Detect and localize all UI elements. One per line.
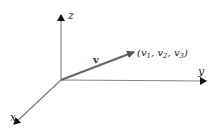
coordinate-diagram: z y x v (v1, v2, v3) <box>0 0 223 140</box>
y-axis-label: y <box>197 65 205 78</box>
x-axis-label: x <box>10 111 17 124</box>
vector-label: v <box>92 54 100 65</box>
paren-close: ) <box>183 47 188 58</box>
x-axis <box>14 80 61 124</box>
z-axis-label: z <box>67 9 74 22</box>
vector-components-label: (v1, v2, v3) <box>137 47 188 60</box>
y-axis <box>61 80 206 81</box>
